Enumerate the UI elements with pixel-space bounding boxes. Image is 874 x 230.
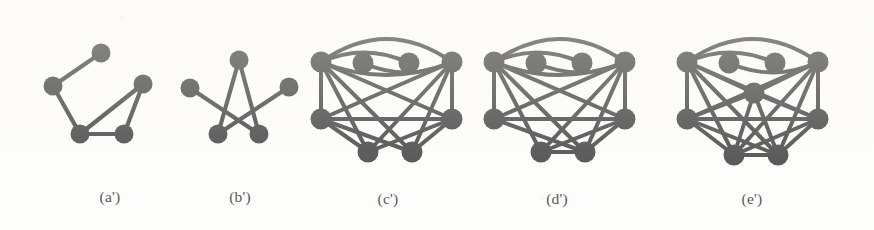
graph-edge — [321, 62, 368, 152]
graph-vertex-d-top-left — [484, 52, 505, 73]
graph-c-prime — [311, 39, 463, 163]
graph-figure: (a') (b') (c') (d') (e') — [0, 0, 874, 230]
graph-edge — [494, 39, 625, 62]
caption-a-prime: (a') — [80, 188, 140, 206]
graph-vertex-e-top-right — [808, 52, 829, 73]
graph-vertex-c-top-right — [442, 52, 463, 73]
graph-vertex-e-mid-right — [808, 109, 829, 130]
graph-vertex-c-bottom-left — [358, 142, 379, 163]
graph-vertex-a-top — [92, 44, 111, 63]
graph-vertex-c-inner-left — [353, 53, 374, 74]
graph-vertex-e-bottom-left — [724, 145, 745, 166]
caption-e-prime: (e') — [722, 190, 782, 208]
graph-vertex-c-mid-right — [442, 109, 463, 130]
graph-vertex-e-top-left — [677, 52, 698, 73]
graph-d-prime — [484, 39, 636, 163]
graph-vertex-a-bottom-left — [71, 125, 90, 144]
edges-b-prime — [190, 60, 289, 134]
graph-edge — [321, 39, 452, 62]
caption-c-prime: (c') — [358, 190, 418, 208]
graph-vertex-b-bottom-left — [209, 125, 228, 144]
graph-vertex-d-inner-left — [526, 53, 547, 74]
graph-vertex-a-right — [134, 75, 153, 94]
graph-a-prime — [44, 44, 153, 144]
graph-vertex-a-left — [44, 77, 63, 96]
graph-vertex-e-inner-left — [719, 53, 740, 74]
graph-vertex-c-bottom-right — [402, 142, 423, 163]
graph-b-prime — [181, 51, 299, 144]
caption-b-prime: (b') — [210, 188, 270, 206]
graph-vertex-e-mid-left — [677, 109, 698, 130]
graph-edge — [494, 62, 541, 152]
graph-vertex-d-mid-left — [484, 109, 505, 130]
graph-vertex-d-inner-right — [572, 53, 593, 74]
graph-edge — [687, 39, 818, 62]
nodes-a-prime — [44, 44, 153, 144]
graph-vertex-b-right — [280, 78, 299, 97]
graph-vertex-d-mid-right — [615, 109, 636, 130]
nodes-b-prime — [181, 51, 299, 144]
graph-vertex-d-top-right — [615, 52, 636, 73]
graph-vertex-c-inner-right — [399, 53, 420, 74]
edges-c-prime — [321, 39, 452, 152]
graph-vertex-e-inner-right — [765, 53, 786, 74]
graph-vertex-c-top-left — [311, 52, 332, 73]
graph-vertex-e-center — [744, 83, 765, 104]
graph-vertex-b-top — [230, 51, 249, 70]
graph-vertex-a-bottom-right — [115, 125, 134, 144]
graph-e-prime — [677, 39, 829, 166]
graph-vertex-c-mid-left — [311, 109, 332, 130]
graph-vertex-d-bottom-left — [531, 142, 552, 163]
graph-vertex-b-bottom-right — [250, 125, 269, 144]
edges-a-prime — [53, 53, 143, 134]
edges-d-prime — [494, 39, 625, 152]
graph-vertex-b-left — [181, 79, 200, 98]
caption-d-prime: (d') — [527, 190, 587, 208]
graph-vertex-d-bottom-right — [575, 142, 596, 163]
graph-vertex-e-bottom-right — [768, 145, 789, 166]
